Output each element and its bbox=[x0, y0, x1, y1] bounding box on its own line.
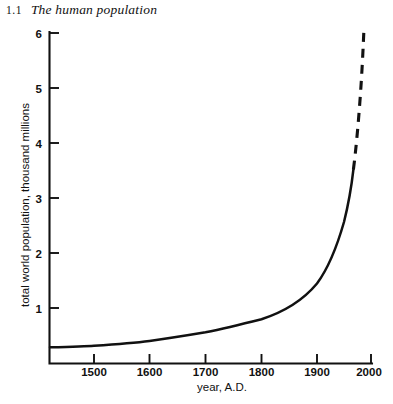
x-axis-label: year, A.D. bbox=[197, 381, 247, 393]
y-tick-label-3: 3 bbox=[36, 193, 42, 205]
x-tick-label-1700: 1700 bbox=[193, 366, 219, 378]
x-tick-label-1900: 1900 bbox=[304, 366, 330, 378]
y-tick-label-5: 5 bbox=[36, 83, 43, 95]
population-curve-observed bbox=[50, 170, 353, 348]
axis-lines bbox=[50, 32, 373, 364]
figure-human-population: 1.1The human population 6 5 4 3 2 1 bbox=[0, 0, 393, 404]
y-tick-label-6: 6 bbox=[36, 28, 42, 40]
x-tick-marks bbox=[94, 354, 371, 364]
y-tick-label-1: 1 bbox=[36, 303, 43, 315]
population-chart: 6 5 4 3 2 1 1500 1600 1700 1800 1900 200… bbox=[0, 0, 393, 404]
population-curve-projected bbox=[353, 33, 363, 170]
y-tick-marks bbox=[50, 33, 60, 308]
y-tick-label-2: 2 bbox=[36, 248, 42, 260]
x-tick-label-1800: 1800 bbox=[249, 366, 275, 378]
x-tick-label-2000: 2000 bbox=[356, 366, 382, 378]
y-axis-label: total world population, thousand million… bbox=[19, 103, 31, 307]
x-tick-label-1500: 1500 bbox=[81, 366, 107, 378]
y-tick-label-4: 4 bbox=[36, 138, 43, 150]
x-tick-label-1600: 1600 bbox=[137, 366, 163, 378]
